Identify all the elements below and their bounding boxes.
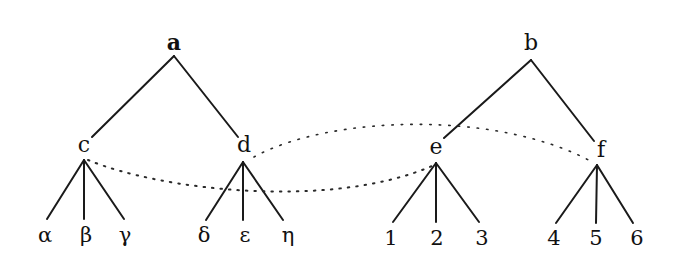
node-labels: a c d α β γ δ ε η b e f 1 2 3 4 5 6 [38, 29, 644, 250]
leaf-6: 6 [630, 226, 643, 250]
edge-a-c [92, 56, 174, 137]
leaf-beta: β [80, 223, 92, 247]
edge-f-leaf-0 [556, 165, 597, 223]
correspondence-d-f [254, 124, 594, 163]
leaf-3: 3 [475, 226, 488, 250]
tree-edges [47, 56, 633, 223]
edge-f-leaf-1 [596, 165, 597, 223]
leaf-5: 5 [589, 226, 602, 250]
edge-c-leaf-0 [47, 160, 84, 219]
node-b: b [524, 30, 538, 55]
correspondence-links [88, 124, 594, 191]
edge-b-f [531, 60, 594, 141]
edge-a-d [174, 56, 238, 137]
edge-f-leaf-2 [597, 165, 633, 223]
leaf-alpha: α [38, 223, 52, 247]
edge-b-e [444, 60, 531, 138]
edge-e-leaf-2 [436, 163, 479, 222]
leaf-gamma: γ [119, 223, 132, 247]
tree-correspondence-diagram: a c d α β γ δ ε η b e f 1 2 3 4 5 6 [0, 0, 682, 261]
leaf-2: 2 [430, 226, 443, 250]
node-e: e [429, 134, 442, 159]
node-f: f [597, 137, 607, 162]
leaf-4: 4 [547, 226, 560, 250]
leaf-delta: δ [198, 223, 211, 247]
node-d: d [237, 132, 251, 157]
node-c: c [78, 132, 90, 157]
edge-c-leaf-2 [84, 160, 124, 219]
leaf-1: 1 [384, 226, 397, 250]
leaf-eta: η [282, 223, 295, 247]
leaf-epsilon: ε [240, 223, 251, 247]
node-a: a [167, 29, 181, 55]
